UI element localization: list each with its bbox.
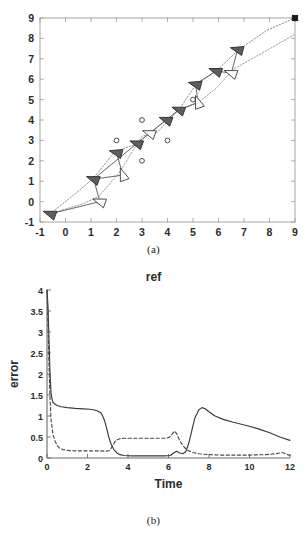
x-tick-label: 8 (267, 226, 273, 238)
panel-a-trajectory-plot: -10123456789-10123456789 (a) (0, 0, 307, 268)
y-tick-label: 8 (28, 32, 34, 44)
x-tick-label: 0 (63, 226, 69, 238)
panel-b-ylabel: error (7, 360, 21, 388)
x-tick-label: 1 (88, 226, 94, 238)
x-tick-label: 7 (241, 226, 247, 238)
x-tick-label: 9 (292, 226, 298, 238)
x-tick-label: 5 (190, 226, 196, 238)
panel-b-svg: 02468101200.511.522.533.54Timeerror (0, 268, 307, 508)
y-tick-label: 3.5 (30, 307, 43, 317)
x-tick-label: 10 (244, 462, 254, 472)
y-tick-label: 1 (28, 175, 34, 187)
panel-b-xlabel: Time (155, 477, 183, 491)
y-tick-label: 5 (28, 94, 34, 106)
y-tick-label: 0 (38, 454, 43, 464)
y-tick-label: 4 (28, 114, 34, 126)
panel-b-title: ref (0, 270, 307, 284)
y-tick-label: 1 (38, 412, 43, 422)
panel-b-error-plot: ref 02468101200.511.522.533.54Timeerror … (0, 268, 307, 539)
series-error-solid (47, 290, 290, 456)
x-tick-label: 4 (125, 462, 130, 472)
y-tick-label: 1.5 (30, 391, 43, 401)
series-error-dashed (47, 290, 290, 455)
y-tick-label: -1 (25, 216, 34, 228)
x-tick-label: 2 (114, 226, 120, 238)
y-tick-label: 0.5 (30, 433, 43, 443)
y-tick-label: 3 (38, 328, 43, 338)
figure-container: -10123456789-10123456789 (a) ref 0246810… (0, 0, 307, 539)
y-tick-label: 2 (28, 155, 34, 167)
x-tick-label: 12 (285, 462, 295, 472)
y-tick-label: 4 (38, 286, 43, 296)
x-tick-label: 8 (206, 462, 211, 472)
x-tick-label: 4 (165, 226, 171, 238)
goal-marker (292, 15, 297, 20)
y-tick-label: 3 (28, 134, 34, 146)
y-tick-label: 2.5 (30, 349, 43, 359)
x-tick-label: 6 (166, 462, 171, 472)
y-tick-label: 7 (28, 53, 34, 65)
x-tick-label: 0 (44, 462, 49, 472)
panel-b-caption: (b) (0, 514, 307, 526)
y-tick-label: 9 (28, 12, 34, 24)
x-tick-label: 6 (216, 226, 222, 238)
x-tick-label: 3 (139, 226, 145, 238)
x-tick-label: -1 (35, 226, 44, 238)
y-tick-label: 2 (38, 370, 43, 380)
panel-a-caption: (a) (0, 243, 307, 255)
x-tick-label: 2 (85, 462, 90, 472)
y-tick-label: 6 (28, 73, 34, 85)
panel-a-svg: -10123456789-10123456789 (0, 0, 307, 240)
y-tick-label: 0 (28, 196, 34, 208)
